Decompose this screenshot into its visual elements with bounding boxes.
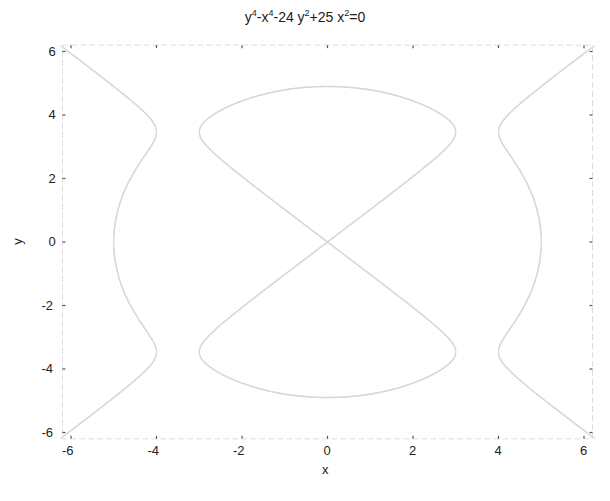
x-axis-label: x xyxy=(322,462,329,477)
curve-branch xyxy=(328,87,456,398)
curve-branch xyxy=(499,46,595,439)
x-tick-label: 6 xyxy=(580,443,587,458)
y-tick-label: 6 xyxy=(48,44,55,59)
x-tick-label: -6 xyxy=(62,443,74,458)
x-tick-label: 0 xyxy=(324,443,331,458)
curve-branch xyxy=(62,47,592,130)
y-tick-label: -2 xyxy=(41,298,53,313)
curve-branch xyxy=(114,134,541,242)
x-tick-label: -2 xyxy=(233,443,245,458)
y-tick-label: -6 xyxy=(41,425,53,440)
curve-branch xyxy=(199,87,327,398)
x-tick-label: 4 xyxy=(495,443,502,458)
y-axis-label: y xyxy=(10,238,25,245)
y-tick-label: 0 xyxy=(48,234,55,249)
x-tick-label: -4 xyxy=(148,443,160,458)
x-tick-label: 2 xyxy=(409,443,416,458)
curve-branch xyxy=(62,354,592,437)
y-tick-label: 2 xyxy=(48,171,55,186)
y-tick-label: -4 xyxy=(41,361,53,376)
curve-branch xyxy=(61,46,157,439)
plot-area xyxy=(0,0,610,501)
curve-branch xyxy=(114,242,541,350)
y-tick-label: 4 xyxy=(48,107,55,122)
